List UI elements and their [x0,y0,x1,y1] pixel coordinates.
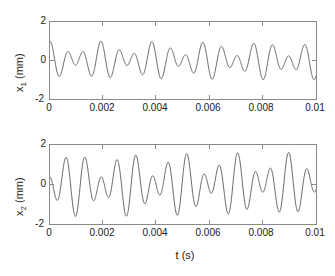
x-tick-mark [155,95,156,99]
x-tick-mark [102,22,103,26]
x-tick-label-0004: 0.004 [133,228,177,238]
x-tick-mark [262,22,263,26]
x-tick-label-0006: 0.006 [186,103,230,113]
y-tick-label-top-0: 0 [24,55,46,65]
y-tick-label-bottom-0: 0 [24,179,46,189]
x-tick-mark [209,145,210,149]
x-tick-label-0008: 0.008 [239,228,283,238]
y-tick-label-top-2: 2 [24,16,46,26]
y-tick-mark [312,60,316,61]
x-tick-mark [155,220,156,224]
panel-x1: x1 (mm) 2 0 -2 0 0.002 0.004 0.006 0.008 [0,0,335,128]
x-tick-mark [102,145,103,149]
x-tick-mark [102,220,103,224]
x-tick-label-001: 0.01 [297,103,333,113]
y-tick-mark [312,184,316,185]
panel-x2: x2 (mm) 2 0 -2 0 0.002 0.004 0.006 0.008… [0,123,335,276]
figure: x1 (mm) 2 0 -2 0 0.002 0.004 0.006 0.008 [0,0,335,276]
y-tick-mark [50,60,54,61]
x-tick-mark [209,95,210,99]
x-tick-mark [209,22,210,26]
y-axis-label-x1-base: x [13,87,25,93]
axes-x2 [49,144,317,225]
plot-area-x1 [50,22,316,99]
x-tick-mark [262,220,263,224]
data-line-x2 [50,153,316,217]
x-tick-mark [155,22,156,26]
x-axis-label: t (s) [140,250,230,261]
y-tick-label-bottom-2: 2 [24,139,46,149]
x-tick-mark [155,145,156,149]
x-tick-label-0004: 0.004 [133,103,177,113]
x-tick-label-0002: 0.002 [80,103,124,113]
x-tick-label-0002: 0.002 [80,228,124,238]
x-tick-label-0008: 0.008 [239,103,283,113]
x-tick-mark [102,95,103,99]
y-axis-label-x1-sub: 1 [19,82,28,86]
x-tick-label-0: 0 [39,228,59,238]
y-tick-mark [50,184,54,185]
x-tick-mark [262,95,263,99]
y-axis-label-x2-sub: 2 [19,206,28,210]
data-line-x1 [50,41,316,79]
y-axis-label-x2-base: x [13,211,25,217]
plot-area-x2 [50,145,316,224]
x-tick-mark [262,145,263,149]
x-tick-mark [209,220,210,224]
x-tick-label-0: 0 [39,103,59,113]
x-tick-label-001: 0.01 [297,228,333,238]
axes-x1 [49,21,317,100]
x-tick-label-0006: 0.006 [186,228,230,238]
